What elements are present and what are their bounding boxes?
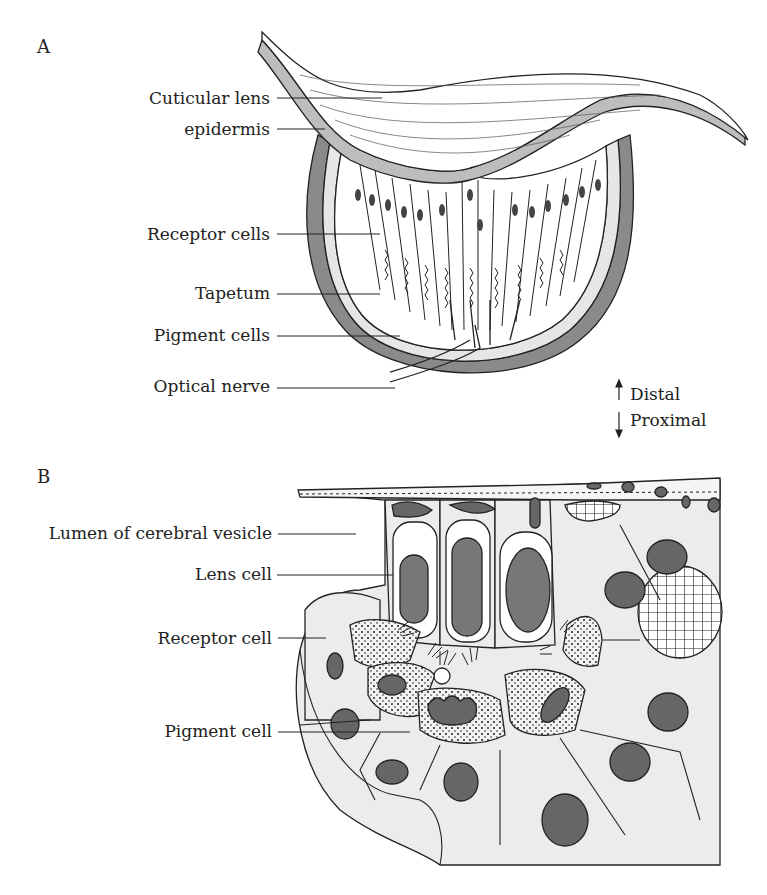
orientation-arrows	[616, 380, 622, 437]
arrow-up-icon	[616, 380, 622, 387]
panel-a-eye	[258, 32, 748, 382]
panel-b-ocellus	[296, 478, 722, 865]
pigment-cell-5	[563, 617, 602, 667]
arrow-down-icon	[616, 430, 622, 437]
diagram-artwork	[0, 0, 767, 895]
pigment-cell-1	[350, 620, 420, 668]
